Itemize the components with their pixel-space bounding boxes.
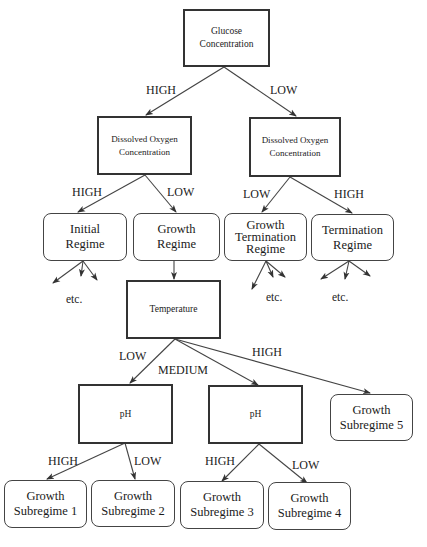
node-text: Initial — [70, 222, 100, 236]
node-growth-termination-regime: Growth Termination Regime — [224, 213, 307, 261]
node-text: Glucose — [211, 26, 242, 36]
node-growth-subregime-4: Growth Subregime 4 — [268, 482, 351, 530]
edge-label-temp-medium: MEDIUM — [158, 363, 208, 378]
node-text: Growth — [352, 403, 390, 417]
node-growth-subregime-1: Growth Subregime 1 — [4, 480, 87, 528]
node-text: Regime — [157, 237, 196, 251]
edge-label-temp-high: HIGH — [252, 345, 282, 360]
node-text: Subregime 5 — [340, 418, 404, 432]
node-text: Concentration — [270, 148, 321, 158]
node-text: Regime — [66, 237, 105, 251]
edge-label-ph-left-low: LOW — [134, 454, 161, 469]
edge-label-ph-right-low: LOW — [292, 458, 319, 473]
node-text: Regime — [246, 242, 285, 256]
node-text: Growth — [26, 489, 64, 503]
node-text: Regime — [333, 238, 372, 252]
node-glucose-concentration: Glucose Concentration — [183, 9, 270, 67]
etc-label-termination: etc. — [332, 291, 348, 303]
node-text: Subregime 4 — [278, 506, 342, 520]
node-text: Termination — [322, 223, 383, 237]
edge-label-glucose-low: LOW — [270, 83, 297, 98]
node-text: Dissolved Oxygen — [111, 134, 178, 144]
node-text: Subregime 1 — [14, 504, 78, 518]
node-growth-regime: Growth Regime — [133, 213, 220, 261]
node-growth-subregime-5: Growth Subregime 5 — [330, 394, 413, 441]
node-text: Growth — [203, 490, 241, 504]
node-text: pH — [120, 408, 132, 421]
node-text: Subregime 2 — [101, 504, 165, 518]
node-text: Temperature — [150, 303, 198, 316]
edge-label-do-left-high: HIGH — [72, 185, 102, 200]
node-temperature: Temperature — [126, 280, 221, 339]
node-ph-right: pH — [208, 385, 303, 444]
edge-temp-ph-right — [175, 339, 258, 385]
edge-label-do-left-low: LOW — [167, 185, 194, 200]
edge-label-ph-right-high: HIGH — [205, 454, 235, 469]
node-text: Dissolved Oxygen — [262, 135, 329, 145]
edge-label-temp-low: LOW — [119, 349, 146, 364]
etc-label-growth-termination: etc. — [266, 291, 282, 303]
node-ph-left: pH — [78, 384, 173, 444]
node-text: Concentration — [200, 39, 254, 49]
node-text: pH — [250, 408, 262, 421]
node-dissolved-oxygen-left: Dissolved Oxygen Concentration — [97, 116, 192, 175]
edge-label-do-right-high: HIGH — [334, 187, 364, 202]
node-text: Growth — [290, 491, 328, 505]
edge-label-ph-left-high: HIGH — [48, 454, 78, 469]
node-text: Growth — [114, 489, 152, 503]
node-dissolved-oxygen-right: Dissolved Oxygen Concentration — [249, 117, 341, 177]
node-growth-subregime-2: Growth Subregime 2 — [91, 480, 175, 527]
node-growth-subregime-3: Growth Subregime 3 — [180, 481, 264, 529]
node-initial-regime: Initial Regime — [43, 213, 127, 261]
node-text: Concentration — [119, 147, 170, 157]
node-text: Growth — [157, 222, 195, 236]
etc-label-initial: etc. — [66, 293, 82, 305]
edge-label-do-right-low: LOW — [243, 187, 270, 202]
node-termination-regime: Termination Regime — [311, 214, 394, 261]
edge-label-glucose-high: HIGH — [146, 83, 176, 98]
node-text: Subregime 3 — [190, 505, 254, 519]
